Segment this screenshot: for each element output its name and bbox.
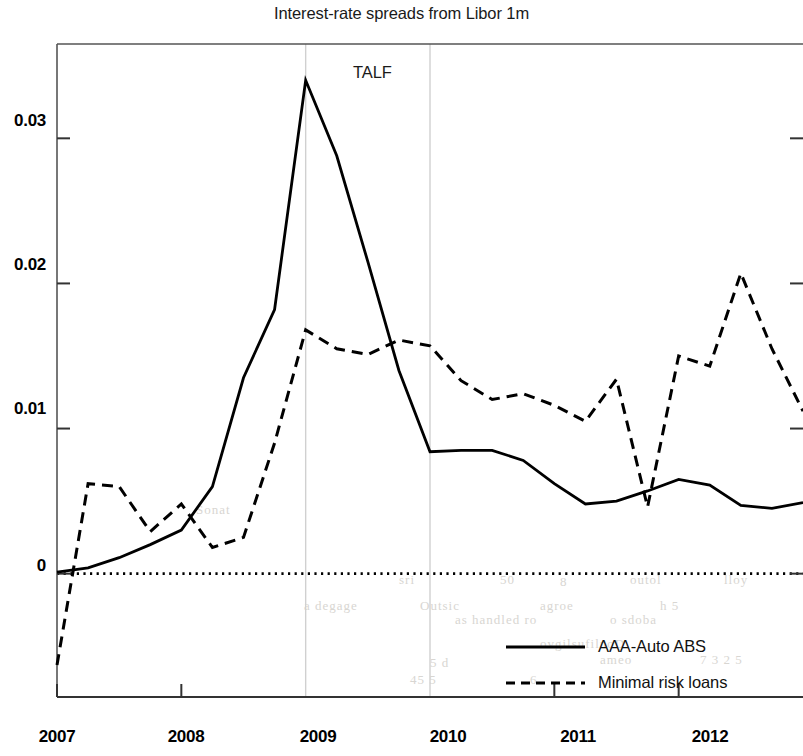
gridlines	[306, 44, 430, 697]
ytick-label-0: 0.03	[0, 111, 46, 131]
talf-annotation: TALF	[353, 63, 392, 82]
xtick-label-2009: 2009	[283, 727, 353, 747]
legend-label-aaa-auto-abs: AAA-Auto ABS	[598, 637, 706, 656]
ytick-label-3: 0	[0, 556, 46, 576]
ytick-label-2: 0.01	[0, 399, 46, 419]
legend-label-minimal-risk-loans: Minimal risk loans	[598, 673, 727, 692]
xtick-label-2012: 2012	[675, 727, 745, 747]
xtick-label-2008: 2008	[151, 727, 221, 747]
xtick-label-2010: 2010	[413, 727, 483, 747]
ytick-label-1: 0.02	[0, 255, 46, 275]
legend-sample-lines	[506, 647, 585, 683]
xtick-label-2011: 2011	[543, 727, 613, 747]
chart-figure: sri508outollloyas handled roo sdobaovgil…	[0, 0, 803, 756]
xtick-label-2007: 2007	[22, 727, 92, 747]
